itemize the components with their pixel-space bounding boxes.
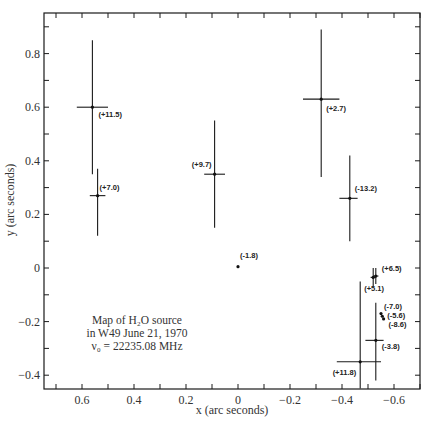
data-point: [359, 360, 362, 363]
data-point: [91, 106, 94, 109]
point-velocity-label: (-5.6): [387, 311, 405, 320]
y-tick-label: 0: [34, 261, 40, 275]
y-tick-label: 0.2: [25, 207, 40, 221]
point-velocity-label: (+2.7): [326, 104, 346, 113]
annotation-line-1: Map of H₂O source: [92, 314, 182, 327]
data-point: [96, 194, 99, 197]
data-point: [372, 276, 375, 279]
x-tick-label: −0.4: [331, 393, 353, 407]
y-tick-label: −0.4: [18, 368, 40, 382]
y-tick-label: 0.8: [25, 47, 40, 61]
x-tick-label: −0.2: [279, 393, 301, 407]
point-velocity-label: (-13.2): [355, 184, 378, 193]
point-velocity-label: (-1.8): [240, 251, 258, 260]
point-velocity-label: (+11.5): [98, 110, 122, 119]
point-velocity-label: (-3.8): [382, 342, 400, 351]
point-velocity-label: (-7.0): [384, 302, 402, 311]
data-point: [320, 98, 323, 101]
point-velocity-label: (+5.1): [364, 284, 384, 293]
point-velocity-label: (-8.6): [389, 320, 407, 329]
annotation-line-3: ν₀ = 22235.08 MHz: [91, 340, 182, 352]
x-tick-label: 0.4: [127, 393, 142, 407]
h2o-source-map-chart: 0.60.40.20−0.2−0.4−0.60.80.60.40.20−0.2−…: [0, 0, 436, 426]
axis-tick-labels: 0.60.40.20−0.2−0.4−0.60.80.60.40.20−0.2−…: [18, 47, 405, 407]
point-velocity-label: (+11.8): [333, 368, 357, 377]
y-tick-label: 0.4: [25, 154, 40, 168]
data-point: [374, 339, 377, 342]
data-point: [382, 317, 385, 320]
data-point: [213, 173, 216, 176]
point-velocity-label: (+6.5): [382, 264, 402, 273]
y-tick-label: 0.6: [25, 100, 40, 114]
x-axis-title: x (arc seconds): [196, 403, 269, 417]
x-tick-label: 0.2: [179, 393, 194, 407]
x-tick-label: −0.6: [383, 393, 405, 407]
data-point: [236, 265, 239, 268]
y-tick-label: −0.2: [18, 315, 40, 329]
annotation-line-2: in W49 June 21, 1970: [86, 327, 187, 340]
data-point: [348, 197, 351, 200]
x-tick-label: 0.6: [75, 393, 90, 407]
point-velocity-label: (+9.7): [192, 160, 212, 169]
y-axis-title: y (arc seconds): [3, 164, 17, 237]
point-velocity-label: (+7.0): [100, 183, 120, 192]
